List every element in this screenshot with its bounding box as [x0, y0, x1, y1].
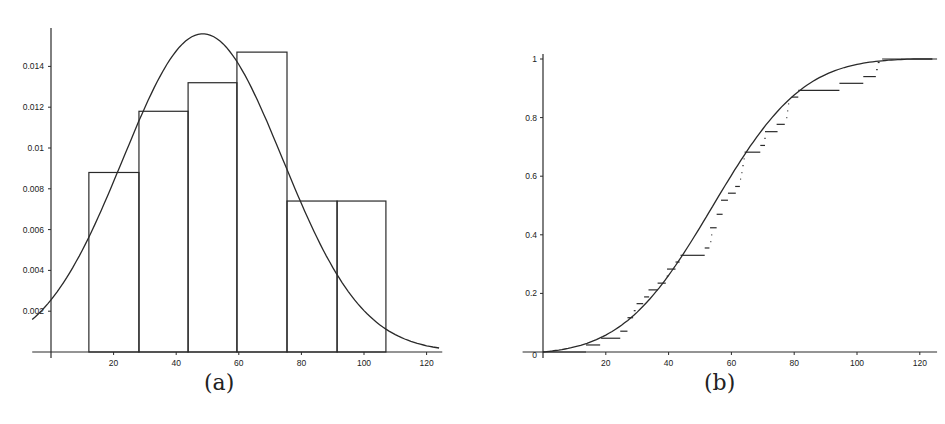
- histogram-bar: [89, 172, 139, 352]
- histogram-bar: [139, 111, 188, 352]
- y-tick-label: 0.014: [23, 61, 45, 71]
- y-tick-label: 0: [532, 350, 537, 360]
- caption-a: (a): [204, 370, 234, 395]
- x-tick-label: 120: [913, 358, 927, 368]
- x-tick-label: 60: [727, 358, 737, 368]
- x-tick-label: 100: [357, 358, 371, 368]
- x-tick-label: 40: [171, 358, 181, 368]
- x-tick-label: 40: [664, 358, 674, 368]
- y-tick-label: 0.01: [27, 143, 44, 153]
- caption-b: (b): [704, 370, 735, 395]
- histogram-bar: [237, 52, 287, 352]
- histogram-bar: [188, 83, 237, 352]
- histogram-bar: [337, 201, 386, 352]
- cdf-chart: 2040608010012000.20.40.60.81: [470, 0, 945, 424]
- x-tick-label: 60: [234, 358, 244, 368]
- y-tick-label: 0.006: [23, 225, 45, 235]
- chart-panel-b: 2040608010012000.20.40.60.81 (b): [470, 0, 945, 424]
- chart-panel-a: 204060801001200.0020.0040.0060.0080.010.…: [0, 0, 470, 424]
- x-tick-label: 100: [850, 358, 864, 368]
- y-tick-label: 0.4: [525, 230, 537, 240]
- x-tick-label: 20: [601, 358, 611, 368]
- histogram-bar: [287, 201, 337, 352]
- density-curve: [32, 34, 439, 348]
- fitted-cdf-curve: [543, 59, 932, 352]
- y-tick-label: 0.2: [525, 288, 537, 298]
- x-tick-label: 120: [420, 358, 434, 368]
- x-tick-label: 20: [109, 358, 119, 368]
- y-tick-label: 0.008: [23, 184, 45, 194]
- y-tick-label: 0.8: [525, 113, 537, 123]
- x-tick-label: 80: [297, 358, 307, 368]
- y-tick-label: 0.012: [23, 102, 45, 112]
- y-tick-label: 0.6: [525, 171, 537, 181]
- histogram-chart: 204060801001200.0020.0040.0060.0080.010.…: [0, 0, 470, 424]
- y-tick-label: 0.004: [23, 265, 45, 275]
- y-tick-label: 1: [532, 54, 537, 64]
- x-tick-label: 80: [789, 358, 799, 368]
